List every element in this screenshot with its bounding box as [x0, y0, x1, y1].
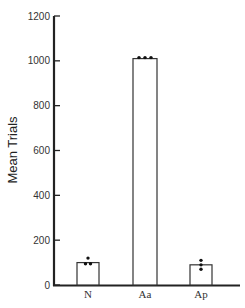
y-tick-label: 1200: [28, 11, 51, 22]
y-tick-label: 200: [33, 235, 50, 246]
bar-chart: 020040060080010001200 NAaAp Mean Trials: [0, 0, 245, 308]
data-point: [199, 263, 202, 266]
y-axis-label: Mean Trials: [5, 116, 20, 184]
bar-aa: [133, 59, 157, 285]
y-axis-ticks: 020040060080010001200: [28, 11, 60, 291]
data-point: [143, 56, 146, 59]
y-tick-label: 800: [33, 100, 50, 111]
x-category-label: Aa: [139, 288, 152, 300]
data-point: [86, 256, 89, 259]
data-point: [149, 56, 152, 59]
x-category-label: N: [84, 288, 92, 300]
data-point: [89, 262, 92, 265]
bar-n: [77, 263, 99, 285]
y-tick-label: 1000: [28, 55, 51, 66]
data-point: [199, 259, 202, 262]
y-tick-label: 600: [33, 145, 50, 156]
y-tick-label: 400: [33, 190, 50, 201]
bars: NAaAp: [77, 56, 212, 300]
data-point: [199, 268, 202, 271]
x-category-label: Ap: [194, 288, 208, 300]
data-point: [137, 56, 140, 59]
data-point: [84, 262, 87, 265]
y-tick-label: 0: [44, 280, 50, 291]
